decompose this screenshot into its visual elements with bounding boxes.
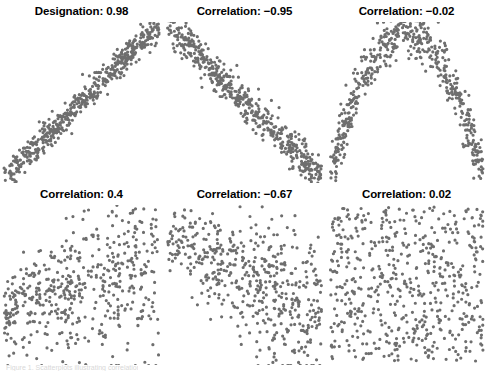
scatter-figure: Designation: 0.98 Correlation: −0.95 Cor… bbox=[0, 0, 487, 372]
scatter-svg-panel-1 bbox=[0, 22, 163, 183]
scatter-svg-panel-2 bbox=[163, 22, 326, 183]
scatter-plot-area bbox=[163, 205, 326, 365]
panel-title: Designation: 0.98 bbox=[0, 5, 163, 17]
scatter-points bbox=[3, 205, 161, 365]
scatter-plot-area bbox=[163, 22, 326, 183]
scatter-svg-panel-4 bbox=[0, 205, 163, 365]
scatter-points bbox=[3, 22, 161, 183]
scatter-plot-area bbox=[326, 205, 487, 365]
panel-title: Correlation: −0.95 bbox=[163, 5, 326, 17]
scatter-plot-area bbox=[326, 22, 487, 183]
scatter-points bbox=[329, 22, 484, 182]
scatter-plot-area bbox=[0, 205, 163, 365]
clipped-caption: Figure 1. Scatterplots illustrating corr… bbox=[6, 364, 138, 371]
panel-designation-098: Designation: 0.98 bbox=[0, 0, 163, 183]
scatter-points bbox=[166, 22, 323, 183]
panel-title: Correlation: −0.67 bbox=[163, 188, 326, 200]
panel-title: Correlation: −0.02 bbox=[326, 5, 487, 17]
panel-correlation-002: Correlation: 0.02 bbox=[326, 183, 487, 365]
panel-title: Correlation: 0.02 bbox=[326, 188, 487, 200]
scatter-points bbox=[166, 205, 323, 365]
scatter-svg-panel-3 bbox=[326, 22, 487, 183]
panel-title: Correlation: 0.4 bbox=[0, 188, 163, 200]
panel-correlation-neg095: Correlation: −0.95 bbox=[163, 0, 326, 183]
panel-correlation-neg002: Correlation: −0.02 bbox=[326, 0, 487, 183]
scatter-svg-panel-6 bbox=[326, 205, 487, 365]
scatter-plot-area bbox=[0, 22, 163, 183]
panel-correlation-04: Correlation: 0.4 bbox=[0, 183, 163, 365]
scatter-svg-panel-5 bbox=[163, 205, 326, 365]
panel-correlation-neg067: Correlation: −0.67 bbox=[163, 183, 326, 365]
panel-grid: Designation: 0.98 Correlation: −0.95 Cor… bbox=[0, 0, 487, 365]
scatter-points bbox=[329, 206, 485, 363]
